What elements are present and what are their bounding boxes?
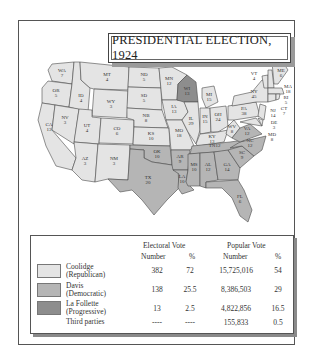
state-fl: [206, 180, 252, 222]
state-ct: [268, 94, 276, 102]
svg-text:CT7: CT7: [281, 106, 287, 116]
svg-text:PA38: PA38: [241, 106, 247, 116]
progressive-swatch: [37, 301, 61, 315]
pv-pct: 16.5: [267, 304, 289, 313]
map-title: PRESIDENTIAL ELECTION, 1924: [111, 36, 288, 60]
party-name: Coolidge(Republican): [66, 263, 105, 279]
us-election-map: WA7 OR5 CA13 ID4 NV3 MT4 WY3 UT4 AZ3 CO6…: [22, 40, 292, 235]
party-name: Davis(Democratic): [66, 282, 106, 298]
svg-text:VT4: VT4: [251, 71, 258, 81]
legend-table: Electoral Vote Popular Vote Number % Num…: [30, 235, 294, 334]
pv-number: 155,833: [211, 318, 261, 327]
ev-number: 138: [139, 285, 175, 294]
party-name: La Follette(Progressive): [66, 300, 106, 316]
ev-number: 13: [139, 304, 175, 313]
pv-number: 8,386,503: [211, 285, 261, 294]
legend-row-third-parties: Third parties ---- ---- 155,833 0.5: [31, 318, 293, 336]
party-name: Third parties: [66, 318, 105, 326]
ev-number: ----: [139, 318, 175, 327]
ev-number: 382: [139, 266, 175, 275]
legend-row-davis: Davis(Democratic) 138 25.5 8,386,503 29: [31, 281, 293, 299]
popular-vote-header: Popular Vote: [227, 241, 266, 250]
svg-text:DE3: DE3: [271, 120, 278, 130]
ev-pct: ----: [177, 318, 203, 327]
pv-number-header: Number: [223, 252, 248, 261]
pv-pct: 54: [267, 266, 289, 275]
ev-number-header: Number: [141, 252, 166, 261]
ev-pct-header: %: [189, 252, 195, 261]
svg-text:RI5: RI5: [284, 95, 289, 105]
svg-text:AL12: AL12: [205, 162, 212, 172]
svg-text:MI15: MI15: [206, 92, 212, 102]
title-box: PRESIDENTIAL ELECTION, 1924: [108, 33, 291, 63]
state-ma: [268, 88, 284, 94]
pv-number: 4,822,856: [211, 304, 261, 313]
state-nj: [258, 104, 266, 120]
ev-pct: 2.5: [177, 304, 203, 313]
svg-text:TN12: TN12: [209, 143, 221, 148]
ev-pct: 25.5: [177, 285, 203, 294]
svg-text:NJ14: NJ14: [270, 108, 276, 118]
state-ri: [276, 94, 280, 100]
svg-text:MD8: MD8: [268, 132, 276, 142]
electoral-vote-header: Electoral Vote: [143, 241, 185, 250]
pv-number: 15,725,016: [211, 266, 261, 275]
pv-pct-header: %: [275, 252, 281, 261]
svg-text:KS10: KS10: [148, 131, 155, 141]
legend-row-lafollette: La Follette(Progressive) 13 2.5 4,822,85…: [31, 299, 293, 317]
democratic-swatch: [37, 283, 61, 297]
pv-pct: 0.5: [267, 318, 289, 327]
republican-swatch: [37, 264, 61, 278]
svg-text:MA18: MA18: [284, 84, 292, 94]
pv-pct: 29: [267, 285, 289, 294]
svg-text:IL29: IL29: [189, 116, 195, 126]
svg-text:IN15: IN15: [202, 114, 208, 124]
svg-text:IA13: IA13: [171, 104, 177, 114]
legend-row-coolidge: Coolidge(Republican) 382 72 15,725,016 5…: [31, 262, 293, 280]
ev-pct: 72: [177, 266, 203, 275]
